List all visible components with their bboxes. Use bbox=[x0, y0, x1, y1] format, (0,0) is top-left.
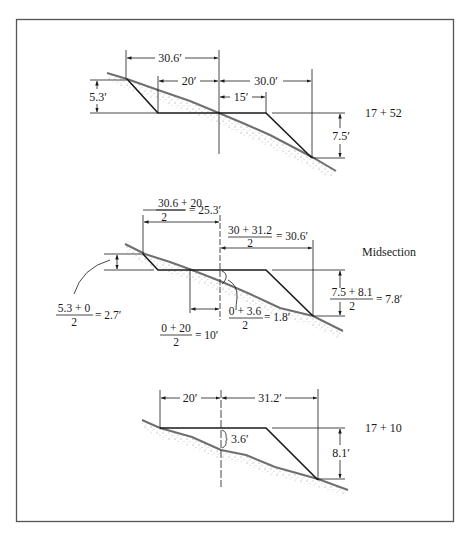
svg-text:2: 2 bbox=[161, 211, 167, 223]
svg-text:5.3 + 0: 5.3 + 0 bbox=[58, 302, 91, 314]
svg-text:0 + 20: 0 + 20 bbox=[161, 322, 191, 334]
ground-surface bbox=[107, 73, 336, 178]
svg-text:2: 2 bbox=[173, 336, 179, 348]
svg-text:= 7.8′: = 7.8′ bbox=[376, 293, 402, 305]
frac-right-height: 7.5 + 8.1 2 = 7.8′ bbox=[330, 286, 402, 312]
station-label: 17 + 52 bbox=[365, 106, 402, 120]
svg-text:7.5 + 8.1: 7.5 + 8.1 bbox=[332, 286, 373, 298]
svg-text:= 25.3′: = 25.3′ bbox=[189, 204, 221, 216]
svg-text:2: 2 bbox=[349, 300, 355, 312]
earthwork-cross-section-figure: 30.6′ 20′ 30.0′ 15′ 5.3′ 7.5′ 17 + 52 bbox=[0, 0, 467, 533]
frac-left-total: 30.6 + 20 2 = 25.3′ bbox=[143, 197, 221, 223]
dim-left-height: 5.3′ bbox=[89, 90, 107, 104]
dim-left-base: 20′ bbox=[182, 74, 197, 88]
frac-left-base: 0 + 20 2 = 10′ bbox=[160, 322, 218, 348]
dim-right-total: 30.0′ bbox=[254, 74, 278, 88]
dim-right-base: 15′ bbox=[234, 90, 249, 104]
section-17-10: 20′ 31.2′ 3.6′ 8.1′ 17 + 10 bbox=[142, 389, 402, 495]
svg-text:0 + 3.6: 0 + 3.6 bbox=[229, 305, 262, 317]
svg-text:= 10′: = 10′ bbox=[195, 329, 218, 341]
svg-text:2: 2 bbox=[247, 237, 253, 249]
section-17-52: 30.6′ 20′ 30.0′ 15′ 5.3′ 7.5′ 17 + 52 bbox=[89, 50, 402, 178]
dim-center-fill: 3.6′ bbox=[231, 432, 249, 446]
svg-text:2: 2 bbox=[242, 319, 248, 331]
svg-text:= 2.7′: = 2.7′ bbox=[95, 309, 121, 321]
section-midsection: 30.6 + 20 2 = 25.3′ 30 + 31.2 2 = 30.6′ … bbox=[56, 197, 416, 348]
frac-left-height: 5.3 + 0 2 = 2.7′ bbox=[56, 302, 121, 328]
dim-right-height: 8.1′ bbox=[332, 446, 350, 460]
station-label: Midsection bbox=[362, 245, 416, 259]
dim-right-total: 31.2′ bbox=[258, 391, 282, 405]
svg-text:30 + 31.2: 30 + 31.2 bbox=[228, 224, 272, 236]
svg-text:2: 2 bbox=[71, 316, 77, 328]
station-label: 17 + 10 bbox=[365, 421, 402, 435]
dim-left-total: 30.6′ bbox=[158, 51, 182, 65]
dim-right-height: 7.5′ bbox=[332, 129, 350, 143]
svg-text:= 30.6′: = 30.6′ bbox=[276, 230, 308, 242]
dim-left-total: 20′ bbox=[183, 391, 198, 405]
frac-right-total: 30 + 31.2 2 = 30.6′ bbox=[228, 224, 308, 249]
svg-text:= 1.8′: = 1.8′ bbox=[264, 311, 290, 323]
